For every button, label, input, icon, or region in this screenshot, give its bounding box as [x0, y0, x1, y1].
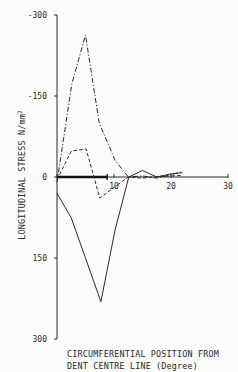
x-tick-label: 20 [166, 182, 176, 191]
series-lines [57, 35, 182, 302]
y-tick-label: 0 [42, 173, 47, 182]
y-tick-label: -300 [28, 11, 47, 20]
y-axis-label: LONGITUDINAL STRESS N/mm2 [14, 110, 29, 240]
y-axis-label-superscript: 2 [16, 110, 23, 114]
y-axis-label-text: LONGITUDINAL STRESS N/mm [17, 114, 27, 240]
y-tick-label: 150 [33, 254, 48, 263]
series-solid [57, 171, 182, 302]
x-axis-label: CIRCUMFERENTIAL POSITION FROM DENT CENTR… [67, 348, 219, 372]
series-dashed [57, 149, 182, 198]
y-tick-label: -150 [28, 92, 47, 101]
series-dash-dot [57, 35, 182, 182]
x-axis-label-line-1: CIRCUMFERENTIAL POSITION FROM [67, 348, 219, 360]
y-tick-label: 300 [33, 335, 48, 344]
x-tick-label: 30 [223, 182, 233, 191]
x-axis-label-line-2: DENT CENTRE LINE (Degree) [67, 360, 219, 372]
